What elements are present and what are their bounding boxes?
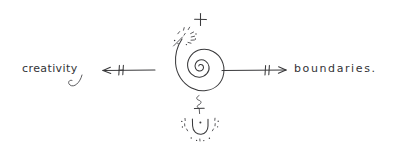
sketch-canvas: creativity boundaries.: [0, 0, 415, 153]
right-arrow: [222, 65, 286, 75]
label-creativity: creativity: [22, 62, 78, 75]
spiral-icon: [175, 39, 223, 91]
label-boundaries: boundaries.: [294, 62, 377, 75]
sparkle-burst-icon: [174, 27, 197, 46]
left-barrier-mark: [119, 65, 124, 75]
squiggle-line: [194, 96, 204, 114]
cup-sparkles-icon: [181, 118, 219, 141]
plus-top-icon: [195, 14, 207, 26]
left-arrow: [103, 65, 155, 75]
creativity-handwriting: [69, 75, 82, 86]
cup-glyph-icon: [192, 119, 208, 134]
sketch-drawing: [0, 0, 415, 153]
